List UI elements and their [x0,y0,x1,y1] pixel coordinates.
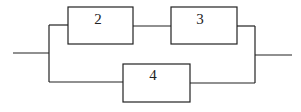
block-diagram [0,0,301,112]
block-2-label: 2 [88,12,108,27]
block-4-label: 4 [143,68,163,83]
block-3-label: 3 [190,12,210,27]
